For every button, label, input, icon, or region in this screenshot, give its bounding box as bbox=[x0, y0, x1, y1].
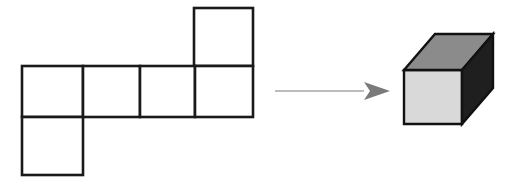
net-square-middle-2 bbox=[83, 66, 140, 117]
folded-cube bbox=[404, 34, 493, 124]
net-square-bottom-left bbox=[22, 117, 83, 175]
net-square-middle-1 bbox=[22, 66, 83, 117]
figure-canvas bbox=[0, 0, 510, 189]
cube-face-front bbox=[404, 70, 462, 124]
cube-net bbox=[22, 8, 253, 175]
net-square-middle-3 bbox=[140, 66, 195, 117]
arrow-head-icon bbox=[364, 82, 390, 100]
transformation-arrow bbox=[275, 82, 390, 100]
net-square-middle-4 bbox=[195, 66, 253, 117]
net-square-top-right bbox=[194, 8, 253, 66]
cube-net-figure bbox=[0, 0, 510, 189]
